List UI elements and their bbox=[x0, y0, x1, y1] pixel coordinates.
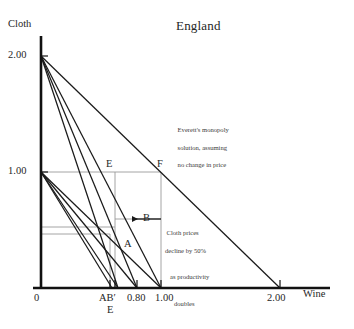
everett-monopoly-note: Everett's monopoly solution, assuming no… bbox=[171, 117, 261, 179]
note1-line2: solution, assuming bbox=[178, 144, 227, 151]
y-tick-label-100: 1.00 bbox=[8, 165, 26, 177]
point-label-F: F bbox=[157, 158, 163, 170]
point-label-E: E bbox=[106, 158, 112, 170]
line-1to080 bbox=[41, 172, 137, 288]
note1-line1: Everett's monopoly bbox=[178, 126, 229, 133]
budget-lines-from-1 bbox=[41, 172, 161, 288]
y-tick-label-200: 2.00 bbox=[8, 49, 26, 61]
cloth-price-decline-note: Cloth prices decline by 50% as productiv… bbox=[160, 220, 252, 327]
x-tick-label-080: 0.80 bbox=[127, 292, 145, 304]
x-tick-label-e: E bbox=[107, 304, 113, 316]
y-axis-title: Cloth bbox=[8, 18, 31, 30]
note2-line4: doubles bbox=[160, 300, 252, 309]
point-label-B: B bbox=[143, 212, 150, 224]
note2-line1: Cloth prices bbox=[167, 229, 199, 236]
x-tick-label-200: 2.00 bbox=[267, 292, 285, 304]
x-axis-title: Wine bbox=[303, 288, 325, 300]
x-tick-label-ab-prime: AB′ bbox=[99, 292, 116, 304]
point-label-A: A bbox=[124, 238, 132, 250]
x-tick-label-0: 0 bbox=[34, 292, 39, 304]
economics-diagram: England Cloth Wine 2.00 1.00 0 AB′ E 0.8… bbox=[0, 0, 354, 329]
note1-line3: no change in price bbox=[178, 161, 227, 168]
line-1to062 bbox=[41, 172, 118, 288]
page-title: England bbox=[176, 18, 221, 33]
note2-line2: decline by 50% bbox=[160, 247, 252, 256]
note2-line3: as productivity bbox=[160, 273, 252, 282]
